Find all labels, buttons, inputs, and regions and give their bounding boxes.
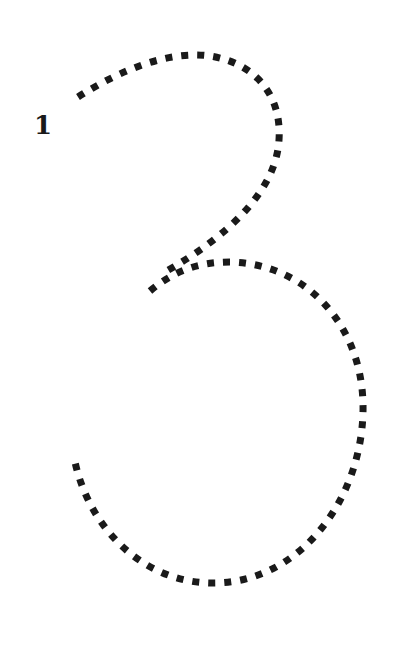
- dotted-digit-three: [0, 0, 407, 645]
- upper-arc-path: [78, 55, 279, 272]
- lower-arc-path: [75, 262, 363, 583]
